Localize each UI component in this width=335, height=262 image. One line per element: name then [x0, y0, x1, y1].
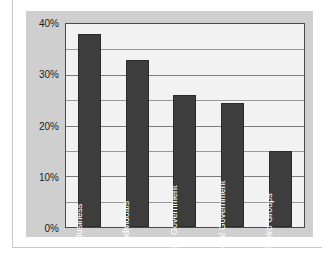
- bar-label: Enviro Groups: [259, 193, 280, 251]
- bar-slot: Enviro Groups: [256, 24, 304, 227]
- bar-federal-government[interactable]: Federal Government: [221, 103, 244, 227]
- bar-state-government[interactable]: State Government: [173, 95, 196, 227]
- bar-label: Federal Government: [212, 181, 233, 262]
- bar-label: Individuals: [116, 201, 137, 244]
- bar-slot: Federal Government: [209, 24, 257, 227]
- bar-series: Business Individuals State Government: [66, 24, 304, 227]
- bar-chart-figure: 40% 30% 20% 10% 0%: [26, 11, 313, 237]
- page-rule-left: [12, 0, 13, 247]
- bar-label: State Government: [164, 185, 185, 258]
- plot-area: Business Individuals State Government: [65, 23, 305, 228]
- bar-slot: Individuals: [114, 24, 162, 227]
- chart-panel: 40% 30% 20% 10% 0%: [26, 11, 313, 237]
- bar-slot: State Government: [161, 24, 209, 227]
- y-axis-tick-label: 20%: [39, 120, 59, 131]
- y-axis-tick-label: 30%: [39, 69, 59, 80]
- y-axis-tick-label: 40%: [39, 18, 59, 29]
- page-canvas: 40% 30% 20% 10% 0%: [0, 0, 335, 262]
- y-axis-tick-label: 0%: [45, 223, 59, 234]
- bar-enviro-groups[interactable]: Enviro Groups: [269, 151, 292, 227]
- y-axis-tick-label: 10%: [39, 171, 59, 182]
- bar-individuals[interactable]: Individuals: [126, 60, 149, 227]
- bar-label: Business: [69, 204, 90, 241]
- bar-slot: Business: [66, 24, 114, 227]
- bar-business[interactable]: Business: [78, 34, 101, 227]
- y-axis: 40% 30% 20% 10% 0%: [26, 23, 62, 228]
